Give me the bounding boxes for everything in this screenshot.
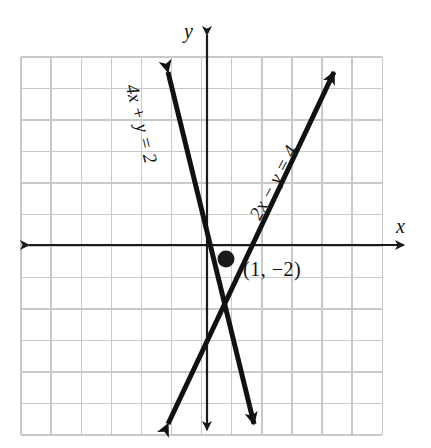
- y-axis-label: y: [184, 20, 193, 43]
- x-axis-label: x: [396, 215, 405, 238]
- line-2x-minus-y-equals-4: [168, 72, 334, 424]
- solution-point-label: (1, −2): [243, 258, 301, 281]
- graph-figure: y x 4x + y = 2 2x − y = 4 (1, −2): [0, 0, 431, 448]
- line-4x-plus-y-equals-2: [168, 72, 254, 424]
- solution-point-marker: [218, 251, 235, 268]
- coordinate-plane-svg: [0, 0, 431, 448]
